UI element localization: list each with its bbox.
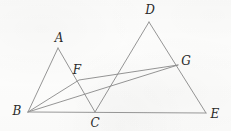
vertex-label-a: A — [55, 32, 64, 44]
vertex-label-e: E — [211, 108, 220, 120]
vertex-label-f: F — [73, 64, 81, 76]
vertex-label-b: B — [13, 105, 22, 117]
segment-ac — [58, 48, 95, 112]
segment-be-baseline — [28, 112, 206, 113]
vertex-label-g: G — [181, 55, 191, 67]
geometry-canvas — [0, 0, 231, 131]
vertex-label-d: D — [145, 4, 155, 16]
vertex-label-c: C — [90, 117, 99, 129]
segment-bg — [28, 65, 178, 112]
segment-dc — [95, 22, 149, 112]
geometry-figure: ABCDEFG — [0, 0, 231, 131]
segment-de — [149, 22, 206, 113]
